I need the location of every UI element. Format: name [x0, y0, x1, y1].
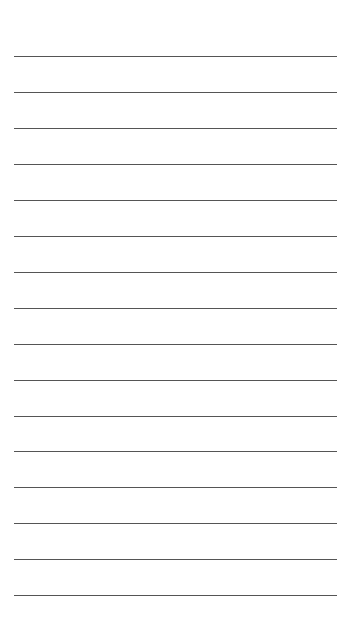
writing-line-15[interactable]	[14, 537, 337, 559]
ruled-line	[14, 344, 337, 345]
ruled-line	[14, 56, 337, 57]
writing-line-12[interactable]	[14, 429, 337, 451]
ruled-line	[14, 523, 337, 524]
ruled-line	[14, 308, 337, 309]
writing-line-8[interactable]	[14, 286, 337, 308]
writing-line-2[interactable]	[14, 70, 337, 92]
writing-line-5[interactable]	[14, 178, 337, 200]
writing-line-9[interactable]	[14, 322, 337, 344]
ruled-line	[14, 380, 337, 381]
ruled-line	[14, 128, 337, 129]
ruled-line	[14, 164, 337, 165]
ruled-line	[14, 487, 337, 488]
ruled-line	[14, 272, 337, 273]
writing-line-1[interactable]	[14, 34, 337, 56]
writing-line-3[interactable]	[14, 106, 337, 128]
writing-line-14[interactable]	[14, 501, 337, 523]
ruled-line	[14, 236, 337, 237]
writing-line-6[interactable]	[14, 214, 337, 236]
writing-line-16[interactable]	[14, 573, 337, 595]
ruled-line	[14, 92, 337, 93]
ruled-line	[14, 200, 337, 201]
writing-line-7[interactable]	[14, 250, 337, 272]
writing-line-4[interactable]	[14, 142, 337, 164]
ruled-line	[14, 595, 337, 596]
ruled-line	[14, 416, 337, 417]
writing-line-13[interactable]	[14, 465, 337, 487]
writing-line-10[interactable]	[14, 358, 337, 380]
ruled-line	[14, 451, 337, 452]
lined-paper-page	[0, 0, 356, 624]
writing-line-11[interactable]	[14, 394, 337, 416]
ruled-line	[14, 559, 337, 560]
